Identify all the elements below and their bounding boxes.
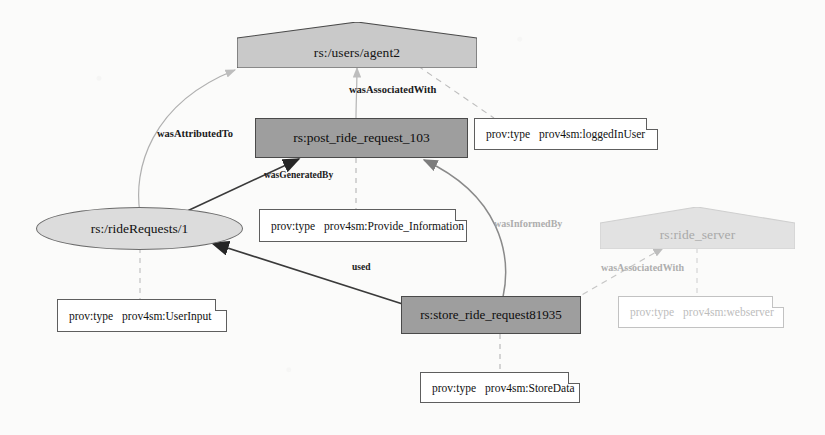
annotation-loggedinuser: prov:type prov4sm:loggedInUser xyxy=(474,118,658,150)
node-agent-users-agent2[interactable]: rs:/users/agent2 xyxy=(237,22,477,68)
note-fold-corner xyxy=(568,372,580,384)
annotation-userinput: prov:type prov4sm:UserInput xyxy=(57,299,227,332)
edge-label-wasgeneratedby: wasGeneratedBy xyxy=(264,170,333,180)
node-entity-riderequests[interactable]: rs:/rideRequests/1 xyxy=(36,207,243,250)
note-fold-corner xyxy=(646,118,658,130)
node-label: rs:ride_server xyxy=(600,227,795,249)
node-label: rs:store_ride_request81935 xyxy=(420,307,562,323)
node-label: rs:/rideRequests/1 xyxy=(91,221,189,237)
edge-label-wasassociatedwith-post: wasAssociatedWith xyxy=(349,84,436,95)
edge-label-used: used xyxy=(352,262,370,272)
note-fold-corner xyxy=(772,296,784,308)
edge-wasassociatedwith-store xyxy=(573,248,663,300)
node-label: rs:post_ride_request_103 xyxy=(293,130,429,146)
note-fold-corner xyxy=(455,209,467,221)
note-fold-corner xyxy=(215,299,227,311)
edge-label-wasattributedto: wasAttributedTo xyxy=(157,128,233,139)
note-key: prov:type xyxy=(486,128,530,140)
note-value: prov4sm:webserver xyxy=(683,306,774,318)
annotation-provide-information: prov:type prov4sm:Provide_Information xyxy=(259,209,467,242)
note-value: prov4sm:loggedInUser xyxy=(539,128,645,140)
edge-used xyxy=(212,243,412,307)
edge-label-wasassociatedwith-store: wasAssociatedWith xyxy=(601,262,684,273)
node-activity-store-ride-request[interactable]: rs:store_ride_request81935 xyxy=(401,296,581,334)
note-key: prov:type xyxy=(69,310,113,322)
node-activity-post-ride-request[interactable]: rs:post_ride_request_103 xyxy=(255,118,468,158)
note-value: prov4sm:StoreData xyxy=(485,382,574,394)
note-value: prov4sm:UserInput xyxy=(122,310,211,322)
edge-wasattributedto xyxy=(139,70,235,213)
note-value: prov4sm:Provide_Information xyxy=(324,220,464,232)
note-key: prov:type xyxy=(271,220,315,232)
node-agent-ride-server[interactable]: rs:ride_server xyxy=(600,207,795,249)
node-label: rs:/users/agent2 xyxy=(237,45,477,68)
annotation-webserver: prov:type prov4sm:webserver xyxy=(618,296,784,328)
edge-wasgeneratedby xyxy=(185,159,299,212)
annotation-storedata: prov:type prov4sm:StoreData xyxy=(420,372,580,403)
edge-label-wasinformedby: wasInformedBy xyxy=(494,218,562,229)
note-key: prov:type xyxy=(432,382,476,394)
provenance-graph-canvas: rs:/users/agent2 rs:post_ride_request_10… xyxy=(0,0,825,435)
note-key: prov:type xyxy=(630,306,674,318)
